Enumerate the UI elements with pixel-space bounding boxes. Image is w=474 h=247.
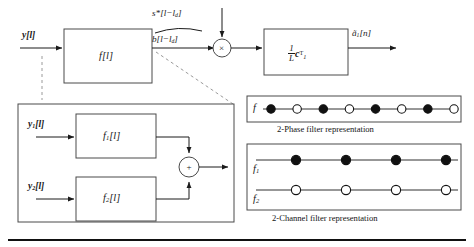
- phase-marker-open-7: [450, 105, 458, 113]
- brace-arc: [155, 28, 202, 33]
- gain-fraction: 1 L: [288, 44, 295, 63]
- channel2-marker-open-3: [441, 185, 450, 194]
- channel2-marker-open-2: [391, 185, 400, 194]
- gain-vector-sub: 1: [303, 53, 306, 60]
- phase-marker-open-5: [398, 105, 406, 113]
- label-input-y2: y2[l]: [28, 181, 44, 192]
- label-block-f1: f1[l]: [103, 131, 120, 142]
- figure-canvas: y[l] f[l] s*[l−ld] b[l−ld] × 1 L cT1 ã1…: [0, 0, 474, 247]
- label-s-star: s*[l−ld]: [152, 9, 181, 19]
- label-output: ã1[n]: [352, 29, 371, 39]
- phase-marker-open-1: [293, 105, 301, 113]
- gain-numerator: 1: [288, 44, 295, 53]
- label-input-y: y[l]: [22, 30, 35, 40]
- channel1-marker-filled-3: [441, 155, 450, 164]
- channel1-marker-filled-0: [291, 155, 300, 164]
- channel1-marker-filled-1: [341, 155, 350, 164]
- channel2-marker-open-0: [291, 185, 300, 194]
- phase-marker-filled-2: [319, 105, 327, 113]
- channel1-marker-filled-2: [391, 155, 400, 164]
- dashed-line-right: [156, 52, 233, 104]
- label-block-f2: f2[l]: [103, 193, 120, 204]
- phase-marker-filled-6: [424, 105, 432, 113]
- adder-symbol: +: [187, 163, 192, 172]
- label-block-f: f[l]: [99, 51, 113, 62]
- channel2-marker-open-1: [341, 185, 350, 194]
- label-two-channel-row-f1: f1: [253, 164, 259, 175]
- phase-marker-filled-0: [267, 105, 275, 113]
- label-block-gain: 1 L cT1: [288, 44, 306, 63]
- phase-marker-filled-4: [371, 105, 379, 113]
- label-two-phase-row: f: [253, 103, 256, 114]
- label-two-channel-row-f2: f2: [253, 194, 259, 205]
- label-input-y1: y1[l]: [28, 119, 44, 130]
- caption-two-phase: 2-Phase filter representation: [277, 125, 374, 134]
- two-channel-panel-frame: [247, 144, 461, 210]
- label-b: b[l−ld]: [152, 35, 178, 45]
- phase-marker-open-3: [345, 105, 353, 113]
- caption-two-channel: 2-Channel filter representation: [272, 214, 377, 223]
- multiplier-symbol: ×: [219, 44, 224, 53]
- diagram-vector-layer: [0, 0, 474, 247]
- gain-denominator: L: [288, 53, 295, 63]
